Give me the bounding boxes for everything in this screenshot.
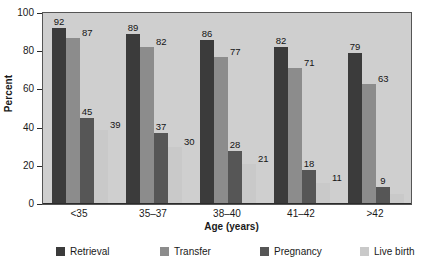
bar-value-label: 71: [304, 58, 315, 68]
bar-value-label: 37: [156, 122, 167, 132]
plot-area: 9287453989823730867728218271181179639: [42, 12, 412, 205]
x-tick-label: 38–40: [187, 208, 267, 219]
legend-swatch-icon: [360, 247, 369, 256]
bar: 63: [362, 84, 376, 204]
bar-value-label: 79: [350, 42, 361, 52]
x-tick-label: 41–42: [261, 208, 341, 219]
bar-value-label: 30: [184, 137, 195, 147]
bar-group: 92874539: [52, 13, 108, 204]
bar: [390, 194, 404, 204]
bar: 92: [52, 28, 66, 204]
bar: 82: [274, 47, 288, 204]
legend-item[interactable]: Transfer: [160, 245, 211, 257]
bar-value-label: 11: [332, 173, 342, 183]
legend-item[interactable]: Pregnancy: [260, 245, 322, 257]
legend-label: Pregnancy: [274, 246, 322, 257]
bar-value-label: 82: [276, 36, 287, 46]
y-tick-label: 100: [0, 8, 34, 18]
bar: 30: [168, 147, 182, 204]
y-tick-label: 20: [0, 161, 34, 171]
bar-group: 82711811: [274, 13, 330, 204]
bar-value-label: 77: [230, 47, 241, 57]
bar: 71: [288, 68, 302, 204]
bar: 45: [80, 118, 94, 204]
legend-label: Transfer: [174, 246, 211, 257]
legend-label: Retrieval: [70, 246, 109, 257]
bar: 28: [228, 151, 242, 204]
bar: 37: [154, 133, 168, 204]
bar-value-label: 92: [54, 17, 65, 27]
x-axis-title: Age (years): [0, 221, 431, 232]
bar-value-label: 18: [304, 159, 315, 169]
bar-value-label: 45: [82, 107, 93, 117]
legend-swatch-icon: [160, 247, 169, 256]
bar: 9: [376, 187, 390, 204]
bar-value-label: 9: [380, 176, 385, 186]
bar-value-label: 63: [378, 74, 389, 84]
bar-value-label: 21: [258, 154, 269, 164]
legend-swatch-icon: [56, 247, 65, 256]
legend-swatch-icon: [260, 247, 269, 256]
legend-item[interactable]: Retrieval: [56, 245, 109, 257]
bar-value-label: 82: [156, 37, 167, 47]
legend-item[interactable]: Live birth: [360, 245, 415, 257]
bar: 39: [94, 130, 108, 204]
bar-group: 79639: [348, 13, 404, 204]
bar-value-label: 89: [128, 23, 139, 33]
bar-value-label: 87: [82, 28, 93, 38]
bar-group: 86772821: [200, 13, 256, 204]
bar: 87: [66, 38, 80, 204]
y-tick-label: 80: [0, 46, 34, 56]
bar-chart-figure: Percent 100806040200 9287453989823730867…: [0, 0, 431, 266]
legend-label: Live birth: [374, 246, 415, 257]
bar-value-label: 28: [230, 140, 241, 150]
bar: 79: [348, 53, 362, 204]
bar: 89: [126, 34, 140, 204]
chart-legend: RetrievalTransferPregnancyLive birth: [42, 245, 412, 259]
bar: 82: [140, 47, 154, 204]
bar: 21: [242, 164, 256, 204]
x-tick-label: >42: [335, 208, 415, 219]
y-tick-label: 0: [0, 199, 34, 209]
bar-group: 89823730: [126, 13, 182, 204]
x-tick-label: 35–37: [113, 208, 193, 219]
bar: 77: [214, 57, 228, 204]
bar-value-label: 39: [110, 120, 121, 130]
bar: 11: [316, 183, 330, 204]
bar-value-label: 86: [202, 29, 213, 39]
x-tick-label: <35: [39, 208, 119, 219]
y-tick-label: 60: [0, 84, 34, 94]
bar: 18: [302, 170, 316, 204]
y-tick-label: 40: [0, 123, 34, 133]
bar: 86: [200, 40, 214, 204]
